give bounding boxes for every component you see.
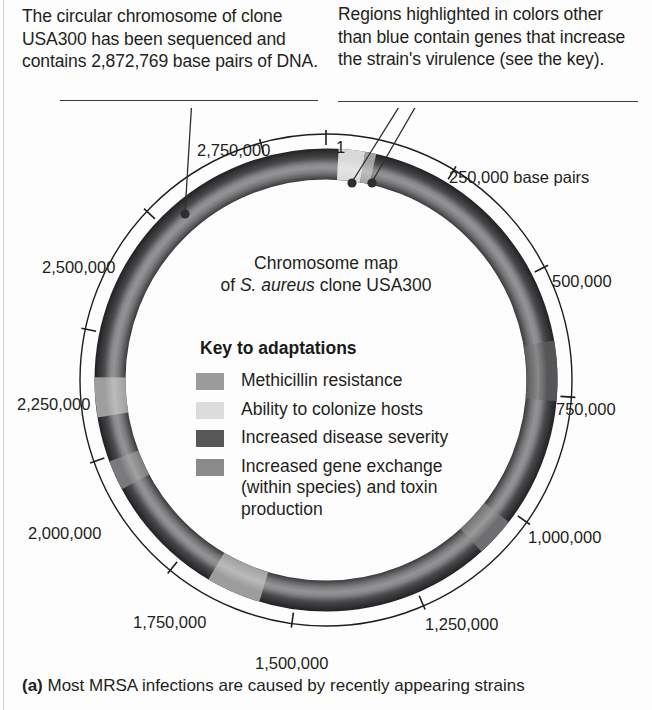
highlight-segment-sheen <box>110 377 113 415</box>
key-item: Ability to colonize hosts <box>196 399 486 421</box>
key-item-label: Increased gene exchange (within species)… <box>241 456 486 521</box>
tick-label: 500,000 <box>552 272 612 291</box>
map-title-prefix: of <box>220 275 239 295</box>
callout-left-underline <box>60 100 318 101</box>
map-title-suffix: clone USA300 <box>315 275 432 295</box>
key-color-swatch <box>196 430 224 447</box>
key-item-label: Ability to colonize hosts <box>241 399 423 421</box>
tick-label: 750,000 <box>556 400 616 419</box>
tick-label: 1,500,000 <box>255 654 328 673</box>
highlight-segment-sheen <box>363 167 373 169</box>
tick-mark <box>560 396 575 397</box>
tick-label: 1,000,000 <box>528 528 601 547</box>
tick-label: 2,750,000 <box>197 141 270 160</box>
key-item-label: Methicillin resistance <box>241 370 402 392</box>
key-to-adaptations: Key to adaptations Methicillin resistanc… <box>196 338 486 527</box>
tick-label: 1 <box>336 138 345 157</box>
highlight-segment-sheen <box>124 456 136 482</box>
tick-mark <box>144 209 155 219</box>
callout-chromosome-size: The circular chromosome of clone USA300 … <box>22 5 322 73</box>
figure-caption: (a) Most MRSA infections are caused by r… <box>22 675 642 697</box>
key-item: Increased gene exchange (within species)… <box>196 456 486 521</box>
tick-label: 1,750,000 <box>133 613 206 632</box>
key-heading: Key to adaptations <box>200 338 486 359</box>
key-row-list: Methicillin resistanceAbility to coloniz… <box>196 370 486 520</box>
key-item: Increased disease severity <box>196 427 486 449</box>
key-color-swatch <box>196 373 224 390</box>
species-name-italic: S. aureus <box>240 275 315 295</box>
key-item-label: Increased disease severity <box>241 427 448 449</box>
highlight-segment-sheen <box>338 164 363 167</box>
callout-highlighted-regions: Regions highlighted in colors other than… <box>338 3 640 71</box>
key-color-swatch <box>196 459 224 476</box>
highlight-segment-sheen <box>216 566 263 587</box>
figure-page: The circular chromosome of clone USA300 … <box>0 0 652 710</box>
tick-label: 250,000 base pairs <box>449 168 589 187</box>
map-title-block: Chromosome map of S. aureus clone USA300 <box>176 252 476 296</box>
key-color-swatch <box>196 402 224 419</box>
caption-marker: (a) <box>22 676 43 695</box>
caption-text: Most MRSA infections are caused by recen… <box>43 676 525 695</box>
map-title-line-1: Chromosome map <box>176 252 476 274</box>
tick-label: 2,000,000 <box>28 524 101 543</box>
tick-mark <box>81 328 96 331</box>
callout-right-underline <box>338 101 638 102</box>
key-item: Methicillin resistance <box>196 370 486 392</box>
tick-mark <box>291 613 293 628</box>
highlight-segment-sheen <box>539 343 542 399</box>
tick-label: 2,500,000 <box>42 258 115 277</box>
map-title-line-2: of S. aureus clone USA300 <box>176 274 476 296</box>
tick-label: 1,250,000 <box>425 615 498 634</box>
tick-label: 2,250,000 <box>17 395 90 414</box>
